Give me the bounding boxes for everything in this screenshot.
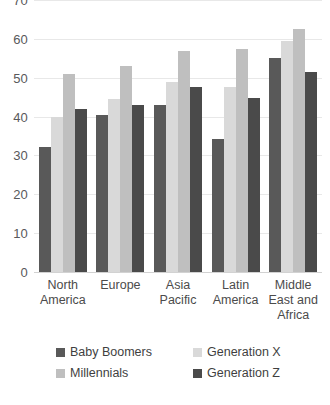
- bar-chart: 010203040506070 NorthAmericaEuropeAsiaPa…: [0, 0, 330, 405]
- x-axis-label-line: North: [35, 278, 91, 293]
- bar[interactable]: [96, 115, 108, 272]
- plot-region: 010203040506070: [0, 0, 330, 285]
- legend-item[interactable]: Generation Z: [193, 366, 330, 380]
- y-axis: 010203040506070: [0, 0, 32, 285]
- bar[interactable]: [190, 87, 202, 272]
- bar-group: [92, 0, 150, 272]
- bar[interactable]: [178, 51, 190, 272]
- y-tick-label: 70: [13, 0, 28, 8]
- bar[interactable]: [132, 105, 144, 272]
- bar-groups: [34, 0, 322, 272]
- legend-label: Generation Z: [207, 366, 280, 380]
- y-tick-label: 40: [13, 109, 28, 124]
- y-tick-label: 10: [13, 226, 28, 241]
- legend-label: Baby Boomers: [70, 345, 152, 359]
- bar[interactable]: [248, 98, 260, 272]
- x-axis-label-line: Africa: [265, 308, 321, 323]
- legend-item[interactable]: Baby Boomers: [56, 345, 193, 359]
- bar[interactable]: [39, 147, 51, 273]
- y-tick-label: 50: [13, 70, 28, 85]
- x-axis-label: LatinAmerica: [207, 278, 265, 323]
- x-axis-label: MiddleEast andAfrica: [264, 278, 322, 323]
- x-axis-label-line: Middle: [265, 278, 321, 293]
- legend-label: Millennials: [70, 366, 128, 380]
- bar[interactable]: [293, 29, 305, 272]
- x-axis-label-line: America: [35, 293, 91, 308]
- x-axis-label-line: Asia: [150, 278, 206, 293]
- bar[interactable]: [212, 139, 224, 272]
- bar[interactable]: [224, 87, 236, 272]
- bar[interactable]: [305, 72, 317, 272]
- x-axis-label-line: America: [208, 293, 264, 308]
- bar[interactable]: [269, 58, 281, 272]
- x-axis-label: Europe: [92, 278, 150, 323]
- legend-swatch-icon: [56, 348, 65, 357]
- bar[interactable]: [63, 74, 75, 272]
- x-axis-labels: NorthAmericaEuropeAsiaPacificLatinAmeric…: [34, 278, 322, 323]
- bar[interactable]: [108, 99, 120, 272]
- bar-group: [264, 0, 322, 272]
- y-tick-label: 0: [21, 265, 28, 280]
- x-axis-label: AsiaPacific: [149, 278, 207, 323]
- bar[interactable]: [51, 117, 63, 272]
- legend-swatch-icon: [193, 348, 202, 357]
- cut-off-caption: [0, 396, 330, 405]
- x-axis-label-line: East and: [265, 293, 321, 308]
- plot-area: [34, 0, 322, 285]
- bar-group: [34, 0, 92, 272]
- x-axis-label-line: Europe: [93, 278, 149, 293]
- x-axis-label: NorthAmerica: [34, 278, 92, 323]
- bar[interactable]: [281, 41, 293, 272]
- axis-baseline: [34, 272, 322, 273]
- chart-legend: Baby BoomersGeneration XMillennialsGener…: [0, 345, 330, 380]
- bar-group: [207, 0, 265, 272]
- legend-swatch-icon: [56, 369, 65, 378]
- bar[interactable]: [120, 66, 132, 272]
- y-tick-label: 60: [13, 31, 28, 46]
- x-axis-label-line: Latin: [208, 278, 264, 293]
- x-axis-label-line: Pacific: [150, 293, 206, 308]
- y-tick-label: 30: [13, 148, 28, 163]
- legend-swatch-icon: [193, 369, 202, 378]
- legend-item[interactable]: Generation X: [193, 345, 330, 359]
- legend-item[interactable]: Millennials: [56, 366, 193, 380]
- bar[interactable]: [75, 109, 87, 272]
- legend-label: Generation X: [207, 345, 281, 359]
- y-tick-label: 20: [13, 187, 28, 202]
- bar-group: [149, 0, 207, 272]
- bar[interactable]: [166, 82, 178, 272]
- bar[interactable]: [236, 49, 248, 272]
- bar[interactable]: [154, 105, 166, 272]
